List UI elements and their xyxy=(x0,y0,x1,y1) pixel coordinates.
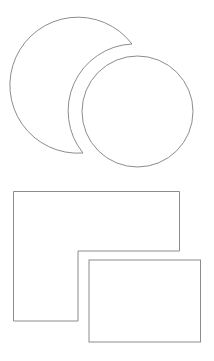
diagram-canvas xyxy=(0,0,214,361)
rectangle-shape xyxy=(89,260,201,342)
circle-shape xyxy=(82,56,193,167)
shapes-svg xyxy=(0,0,214,361)
